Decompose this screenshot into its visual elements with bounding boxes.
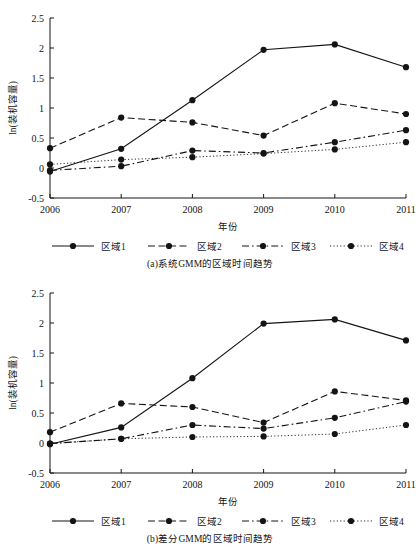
data-point	[47, 441, 53, 447]
data-point	[403, 111, 409, 117]
legend-marker	[348, 243, 354, 249]
plot-area: -0.500.511.522.5200620072008200920102011…	[7, 13, 416, 252]
data-point	[261, 47, 267, 53]
legend-marker	[166, 518, 172, 524]
data-point	[403, 399, 409, 405]
legend-marker	[348, 518, 354, 524]
panel-a-caption: (a)系统GMM的区域时间趋势	[0, 256, 420, 270]
data-point	[332, 415, 338, 421]
x-tick-label: 2010	[325, 204, 345, 215]
legend-marker	[70, 243, 76, 249]
chart-panel-a: -0.500.511.522.5200620072008200920102011…	[0, 0, 420, 275]
data-point	[189, 422, 195, 428]
y-axis-title: ln(装机容量)	[7, 81, 19, 135]
series-line-区域4	[50, 142, 406, 164]
y-axis-title: ln(装机容量)	[7, 356, 19, 410]
legend-marker	[70, 518, 76, 524]
series-line-区域3	[50, 402, 406, 444]
legend-marker	[166, 243, 172, 249]
y-tick-label: -0.5	[28, 468, 44, 479]
data-point	[403, 127, 409, 133]
data-point	[403, 422, 409, 428]
data-point	[261, 433, 267, 439]
y-tick-label: 2.5	[32, 13, 45, 24]
chart-panel-b: -0.500.511.522.5200620072008200920102011…	[0, 275, 420, 550]
y-tick-label: 0	[39, 438, 44, 449]
x-tick-label: 2011	[396, 479, 416, 490]
y-tick-label: -0.5	[28, 193, 44, 204]
legend-label: 区域2	[197, 516, 222, 527]
data-point	[189, 434, 195, 440]
legend-label: 区域2	[197, 241, 222, 252]
data-point	[261, 133, 267, 139]
data-point	[332, 41, 338, 47]
series-line-区域3	[50, 130, 406, 170]
legend-label: 区域4	[379, 516, 404, 527]
plot-area: -0.500.511.522.5200620072008200920102011…	[7, 288, 416, 527]
x-tick-label: 2011	[396, 204, 416, 215]
legend-label: 区域3	[291, 241, 316, 252]
data-point	[118, 400, 124, 406]
y-tick-label: 2.5	[32, 288, 45, 299]
y-tick-label: 2	[39, 43, 44, 54]
y-tick-label: 0.5	[32, 408, 45, 419]
x-axis-title: 年份	[218, 221, 238, 232]
x-axis-title: 年份	[218, 496, 238, 507]
series-line-区域2	[50, 391, 406, 432]
legend-marker	[260, 518, 266, 524]
x-tick-label: 2008	[182, 204, 202, 215]
data-point	[332, 100, 338, 106]
legend-label: 区域3	[291, 516, 316, 527]
data-point	[332, 431, 338, 437]
data-point	[261, 420, 267, 426]
data-point	[332, 139, 338, 145]
data-point	[118, 115, 124, 121]
chart-a-svg: -0.500.511.522.5200620072008200920102011…	[0, 0, 420, 275]
data-point	[189, 154, 195, 160]
y-tick-label: 2	[39, 318, 44, 329]
x-tick-label: 2007	[111, 479, 131, 490]
legend-label: 区域1	[101, 516, 126, 527]
data-point	[403, 139, 409, 145]
y-tick-label: 1	[39, 378, 44, 389]
data-point	[332, 388, 338, 394]
legend-label: 区域4	[379, 241, 404, 252]
data-point	[118, 157, 124, 163]
legend-label: 区域1	[101, 241, 126, 252]
data-point	[118, 436, 124, 442]
data-point	[332, 316, 338, 322]
x-tick-label: 2009	[254, 479, 274, 490]
y-tick-label: 0.5	[32, 133, 45, 144]
data-point	[47, 167, 53, 173]
chart-b-svg: -0.500.511.522.5200620072008200920102011…	[0, 275, 420, 550]
data-point	[261, 151, 267, 157]
data-point	[189, 119, 195, 125]
data-point	[261, 426, 267, 432]
y-tick-label: 1	[39, 103, 44, 114]
y-tick-label: 1.5	[32, 73, 45, 84]
x-tick-label: 2007	[111, 204, 131, 215]
data-point	[189, 375, 195, 381]
data-point	[189, 404, 195, 410]
data-point	[47, 161, 53, 167]
y-tick-label: 1.5	[32, 348, 45, 359]
legend-marker	[260, 243, 266, 249]
data-point	[403, 337, 409, 343]
data-point	[47, 145, 53, 151]
series-line-区域1	[50, 44, 406, 171]
x-tick-label: 2010	[325, 479, 345, 490]
series-line-区域1	[50, 319, 406, 444]
y-tick-label: 0	[39, 163, 44, 174]
data-point	[47, 429, 53, 435]
data-point	[118, 163, 124, 169]
x-tick-label: 2009	[254, 204, 274, 215]
data-point	[118, 424, 124, 430]
x-tick-label: 2006	[40, 204, 60, 215]
data-point	[332, 146, 338, 152]
data-point	[261, 321, 267, 327]
data-point	[118, 146, 124, 152]
series-line-区域4	[50, 425, 406, 444]
data-point	[403, 64, 409, 70]
panel-b-caption: (b)差分GMM的区域时间趋势	[0, 531, 420, 545]
data-point	[189, 148, 195, 154]
